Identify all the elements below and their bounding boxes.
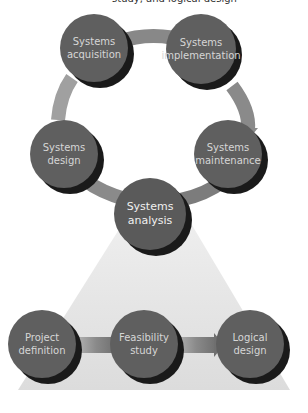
node-label-line2: implementation — [161, 49, 240, 62]
node-label-line1: Systems — [73, 35, 116, 48]
node-logical-design: Logical design — [216, 310, 284, 378]
node-label-line2: definition — [18, 344, 65, 357]
node-label-line1: Systems — [127, 200, 174, 214]
node-label-line2: design — [233, 344, 266, 357]
node-systems-acquisition: Systems acquisition — [60, 14, 128, 82]
node-label-line1: Project — [25, 331, 59, 344]
node-label-line2: study — [130, 344, 158, 357]
node-label-line1: Systems — [207, 141, 250, 154]
connector-design-acq — [58, 78, 72, 120]
node-systems-analysis: Systems analysis — [114, 178, 186, 250]
node-label-line1: Systems — [180, 36, 223, 49]
node-label-line1: Logical — [232, 331, 267, 344]
connector-feasibility-logical — [176, 337, 216, 353]
node-project-definition: Project definition — [8, 310, 76, 378]
node-label-line2: acquisition — [67, 48, 121, 61]
node-label-line2: analysis — [128, 214, 173, 228]
node-systems-design: Systems design — [30, 120, 98, 188]
node-label-line1: Feasibility — [119, 331, 169, 344]
node-label-line1: Systems — [43, 141, 86, 154]
node-label-line2: maintenance — [195, 154, 261, 167]
node-label-line2: design — [47, 154, 80, 167]
node-systems-maintenance: Systems maintenance — [194, 120, 262, 188]
node-feasibility-study: Feasibility study — [110, 310, 178, 378]
node-systems-implementation: Systems implementation — [166, 14, 236, 84]
